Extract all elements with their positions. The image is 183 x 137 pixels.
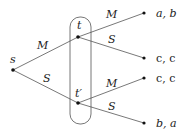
edge-label-t-M: M [105,8,118,21]
diagram-svg: s t t′ M S M S M S a, b c, c c, c b, a [0,0,183,137]
edge-label-t-prime-M: M [105,77,118,90]
payoff-label-4: b, a [156,117,177,130]
edge-label-t-prime-S: S [108,100,116,113]
node-label-s: s [10,53,16,66]
node-s [11,68,15,72]
edge-label-t-S: S [108,33,116,46]
game-tree-diagram: s t t′ M S M S M S a, b c, c c, c b, a [0,0,183,137]
leaf-node-2 [142,56,145,59]
leaf-node-3 [142,76,145,79]
leaf-node-4 [142,121,145,124]
node-label-t: t [77,19,82,32]
node-t-prime [76,101,80,105]
payoff-label-2: c, c [156,52,175,65]
node-t [76,35,80,39]
edge-label-root-S: S [43,72,51,85]
node-label-t-prime: t′ [75,87,82,100]
edge-label-root-M: M [36,39,49,52]
payoff-label-3: c, c [156,72,175,85]
leaf-node-1 [142,11,145,14]
payoff-label-1: a, b [156,7,177,20]
